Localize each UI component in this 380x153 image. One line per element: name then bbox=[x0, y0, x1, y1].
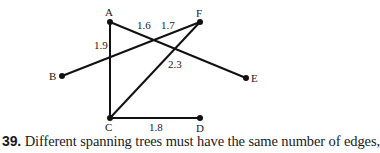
vertex-label-C: C bbox=[105, 121, 112, 133]
vertex-label-F: F bbox=[196, 7, 202, 19]
edge-weight-CD: 1.8 bbox=[149, 121, 163, 133]
exercise-text: Different spanning trees must have the s… bbox=[25, 133, 380, 149]
edge-CF bbox=[110, 22, 200, 118]
vertex-label-E: E bbox=[251, 72, 258, 84]
exercise-caption: 39. Different spanning trees must have t… bbox=[2, 133, 380, 150]
weighted-graph-diagram: 1.91.61.72.31.8AFBECD bbox=[0, 0, 333, 135]
vertex-D bbox=[197, 115, 203, 121]
edge-weight-CF: 2.3 bbox=[168, 58, 182, 70]
vertex-B bbox=[59, 73, 65, 79]
vertex-F bbox=[197, 19, 203, 25]
vertex-label-B: B bbox=[49, 70, 56, 82]
graph-edges bbox=[62, 22, 246, 118]
vertex-label-A: A bbox=[105, 6, 113, 18]
edge-weight-BF: 1.7 bbox=[161, 19, 175, 31]
edge-weight-AC: 1.9 bbox=[94, 39, 108, 51]
edge-weight-AE: 1.6 bbox=[137, 19, 151, 31]
exercise-number: 39. bbox=[2, 133, 21, 149]
vertex-E bbox=[243, 75, 249, 81]
vertex-A bbox=[107, 19, 113, 25]
